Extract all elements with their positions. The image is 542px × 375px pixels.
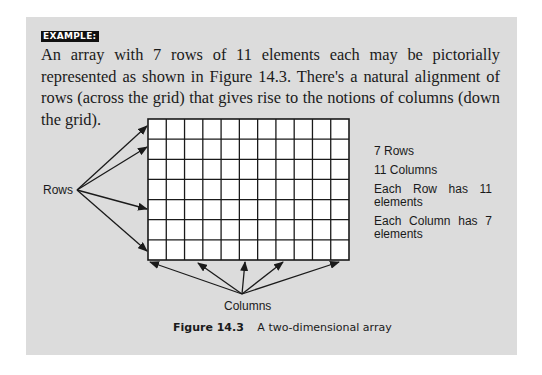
figure-caption: Figure 14.3 A two-dimensional array	[173, 321, 392, 334]
column-arrows	[150, 262, 339, 294]
array-grid	[148, 119, 349, 260]
fact-columns: 11 Columns	[374, 164, 492, 177]
row-arrows	[77, 126, 147, 251]
row-arrow-icon	[77, 126, 147, 190]
array-facts: 7 Rows 11 Columns Each Row has 11 elemen…	[374, 145, 492, 247]
column-arrow-icon	[242, 262, 339, 294]
column-arrow-icon	[242, 262, 283, 294]
column-arrow-icon	[198, 263, 242, 294]
row-arrow-icon	[77, 147, 147, 190]
example-panel: EXAMPLE: An array with 7 rows of 11 elem…	[26, 17, 517, 355]
fact-rows: 7 Rows	[374, 145, 492, 158]
figure-caption-text: A two-dimensional array	[257, 321, 391, 334]
fact-column-elements: Each Column has 7 elements	[374, 215, 492, 241]
figure-number: Figure 14.3	[173, 321, 244, 334]
column-arrow-icon	[242, 262, 245, 294]
columns-label: Columns	[224, 299, 271, 313]
rows-label: Rows	[43, 183, 73, 197]
fact-row-elements: Each Row has 11 elements	[374, 183, 492, 209]
column-arrow-icon	[150, 262, 242, 294]
